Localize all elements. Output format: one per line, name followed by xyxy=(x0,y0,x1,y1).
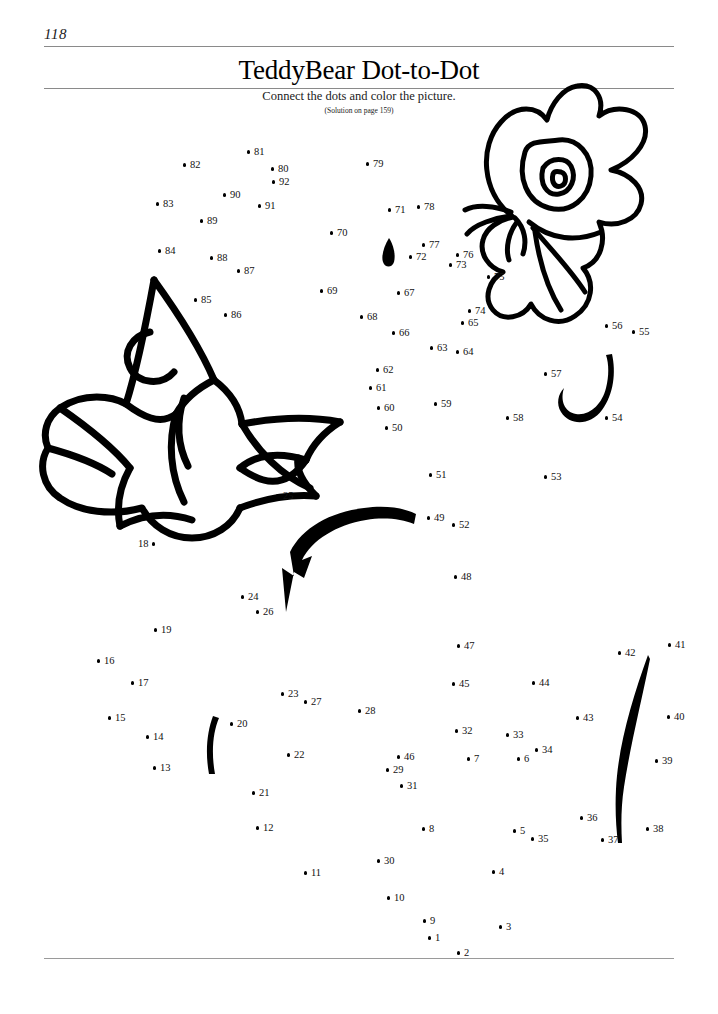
dot-label: 32 xyxy=(462,726,473,737)
dot-marker-icon xyxy=(304,871,307,874)
dot-label: 42 xyxy=(625,648,636,659)
dot-label: 34 xyxy=(542,745,553,756)
dot-marker-icon xyxy=(156,202,159,205)
dot-67: 67 xyxy=(397,288,414,299)
dot-22: 22 xyxy=(287,750,304,761)
dot-label: 62 xyxy=(383,365,394,376)
dot-label: 76 xyxy=(463,250,474,261)
dot-label: 23 xyxy=(288,689,299,700)
dot-14: 14 xyxy=(146,732,163,743)
dot-39: 39 xyxy=(655,756,672,767)
dot-40: 40 xyxy=(667,712,684,723)
dot-11: 11 xyxy=(304,868,321,879)
dot-label: 8 xyxy=(429,824,434,835)
dot-label: 79 xyxy=(373,159,384,170)
dot-49: 49 xyxy=(427,513,444,524)
dot-marker-icon xyxy=(544,475,547,478)
dot-marker-icon xyxy=(210,256,213,259)
dot-71: 71 xyxy=(388,205,405,216)
dot-marker-icon xyxy=(276,494,279,497)
dot-label: 72 xyxy=(416,252,427,263)
dot-56: 56 xyxy=(605,321,622,332)
dot-marker-icon xyxy=(194,298,197,301)
dot-9: 9 xyxy=(423,916,435,927)
dot-label: 68 xyxy=(367,312,378,323)
dot-marker-icon xyxy=(247,150,250,153)
dot-marker-icon xyxy=(456,253,459,256)
dot-marker-icon xyxy=(417,205,420,208)
dot-18: 18 xyxy=(138,539,155,550)
dot-43: 43 xyxy=(576,713,593,724)
dot-marker-icon xyxy=(434,402,437,405)
dot-marker-icon xyxy=(409,255,412,258)
dot-label: 54 xyxy=(612,413,623,424)
dot-label: 82 xyxy=(190,160,201,171)
dot-label: 65 xyxy=(468,318,479,329)
dot-54: 54 xyxy=(605,413,622,424)
dot-marker-icon xyxy=(601,838,604,841)
dot-label: 58 xyxy=(513,413,524,424)
dot-marker-icon xyxy=(97,659,100,662)
dot-label: 92 xyxy=(279,177,290,188)
dot-53: 53 xyxy=(544,472,561,483)
dot-label: 85 xyxy=(201,295,212,306)
dot-marker-icon xyxy=(256,610,259,613)
dot-15: 15 xyxy=(108,713,125,724)
dot-7: 7 xyxy=(467,754,479,765)
dot-marker-icon xyxy=(580,816,583,819)
dot-73: 73 xyxy=(449,260,466,271)
dot-label: 5 xyxy=(520,826,525,837)
dot-marker-icon xyxy=(422,243,425,246)
dot-marker-icon xyxy=(400,784,403,787)
dot-marker-icon xyxy=(531,837,534,840)
dot-label: 26 xyxy=(263,607,274,618)
dot-marker-icon xyxy=(256,826,259,829)
dot-label: 28 xyxy=(365,706,376,717)
dot-marker-icon xyxy=(468,309,471,312)
dot-label: 57 xyxy=(551,369,562,380)
dot-label: 87 xyxy=(244,266,255,277)
dot-31: 31 xyxy=(400,781,417,792)
dot-1: 1 xyxy=(428,933,440,944)
dot-label: 20 xyxy=(237,719,248,730)
dot-marker-icon xyxy=(237,269,240,272)
dot-75: 75 xyxy=(487,272,504,283)
dot-label: 51 xyxy=(436,470,447,481)
dot-46: 46 xyxy=(397,752,414,763)
dot-marker-icon xyxy=(230,722,233,725)
dot-label: 44 xyxy=(539,678,550,689)
dot-marker-icon xyxy=(423,919,426,922)
dot-label: 4 xyxy=(499,867,504,878)
dot-marker-icon xyxy=(258,204,261,207)
dot-label: 61 xyxy=(376,383,387,394)
dot-45: 45 xyxy=(452,679,469,690)
dot-58: 58 xyxy=(506,413,523,424)
dot-51: 51 xyxy=(429,470,446,481)
dot-label: 43 xyxy=(583,713,594,724)
dot-marker-icon xyxy=(376,368,379,371)
dot-label: 52 xyxy=(459,520,470,531)
dot-marker-icon xyxy=(397,755,400,758)
dot-89: 89 xyxy=(200,216,217,227)
dot-87: 87 xyxy=(237,266,254,277)
dot-59: 59 xyxy=(434,399,451,410)
dot-marker-icon xyxy=(330,231,333,234)
dot-label: 10 xyxy=(394,893,405,904)
dot-marker-icon xyxy=(499,925,502,928)
dot-label: 24 xyxy=(248,592,259,603)
dot-marker-icon xyxy=(605,324,608,327)
dot-marker-icon xyxy=(397,291,400,294)
dot-marker-icon xyxy=(544,372,547,375)
dot-label: 38 xyxy=(653,824,664,835)
dot-label: 7 xyxy=(474,754,479,765)
dot-marker-icon xyxy=(646,827,649,830)
dot-label: 30 xyxy=(384,856,395,867)
dot-label: 31 xyxy=(407,781,418,792)
dot-38: 38 xyxy=(646,824,663,835)
dot-label: 40 xyxy=(674,712,685,723)
dot-62: 62 xyxy=(376,365,393,376)
dot-label: 14 xyxy=(153,732,164,743)
dot-63: 63 xyxy=(430,343,447,354)
dot-29: 29 xyxy=(386,765,403,776)
dot-label: 16 xyxy=(104,656,115,667)
